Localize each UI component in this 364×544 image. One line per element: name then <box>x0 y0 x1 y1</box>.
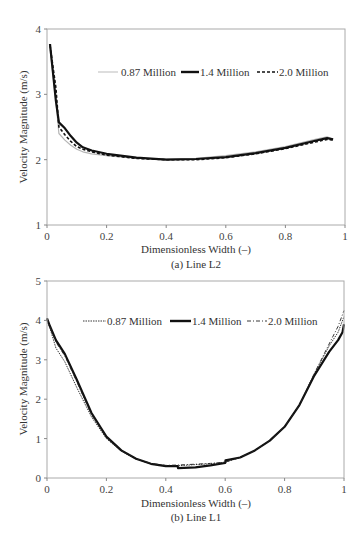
y-tick-label: 3 <box>36 354 42 366</box>
y-tick-label: 1 <box>36 219 42 231</box>
chart-caption: (b) Line L1 <box>171 511 222 524</box>
legend-label-14: 1.4 Million <box>192 315 242 327</box>
series-line <box>47 317 344 466</box>
x-axis-label: Dimensionless Width (–) <box>141 497 251 510</box>
plot-lines <box>50 44 333 160</box>
legend-label-087: 0.87 Million <box>107 315 163 327</box>
x-tick-label: 0.6 <box>219 230 233 242</box>
x-tick-label: 0 <box>44 483 50 495</box>
axis-ticks: 00.20.40.60.811234 <box>36 23 348 242</box>
x-axis-label: Dimensionless Width (–) <box>141 243 251 256</box>
y-axis-label: Velocity Magnitude (m/s) <box>17 70 30 183</box>
y-tick-label: 2 <box>36 393 42 405</box>
plot-frame <box>47 281 344 478</box>
x-tick-label: 0.4 <box>159 483 173 495</box>
legend-label-14: 1.4 Million <box>200 66 250 78</box>
y-tick-label: 4 <box>36 314 42 326</box>
legend-label-20: 2.0 Million <box>279 66 329 78</box>
x-tick-label: 0.6 <box>218 483 232 495</box>
series-line <box>50 44 333 160</box>
x-tick-label: 0 <box>44 230 50 242</box>
y-tick-label: 4 <box>36 23 42 35</box>
y-axis-label: Velocity Magnitude (m/s) <box>17 322 30 435</box>
plot-frame <box>47 29 345 225</box>
legend: 0.87 Million 1.4 Million 2.0 Million <box>83 315 318 327</box>
y-tick-label: 5 <box>36 275 42 287</box>
series-line <box>50 45 333 159</box>
x-tick-label: 0.2 <box>100 230 114 242</box>
legend-label-20: 2.0 Million <box>268 315 318 327</box>
figure: 00.20.40.60.811234 Dimensionless Width (… <box>0 0 364 544</box>
y-tick-label: 1 <box>36 433 42 445</box>
plot-lines <box>47 311 344 469</box>
x-tick-label: 0.8 <box>279 230 293 242</box>
axis-ticks: 00.20.40.60.81012345 <box>36 275 347 495</box>
y-tick-label: 0 <box>36 472 42 484</box>
x-tick-label: 1 <box>342 230 348 242</box>
chart-line-l2: 00.20.40.60.811234 Dimensionless Width (… <box>17 23 348 271</box>
y-tick-label: 3 <box>36 88 42 100</box>
chart-line-l1: 00.20.40.60.81012345 Dimensionless Width… <box>17 275 347 524</box>
x-tick-label: 0.8 <box>278 483 292 495</box>
legend-label-087: 0.87 Million <box>121 66 177 78</box>
series-line <box>47 311 344 466</box>
x-tick-label: 0.4 <box>159 230 173 242</box>
chart-caption: (a) Line L2 <box>171 258 221 271</box>
y-tick-label: 2 <box>36 154 42 166</box>
x-tick-label: 1 <box>341 483 347 495</box>
legend: 0.87 Million 1.4 Million 2.0 Million <box>98 66 329 78</box>
x-tick-label: 0.2 <box>100 483 114 495</box>
series-line <box>47 318 344 468</box>
